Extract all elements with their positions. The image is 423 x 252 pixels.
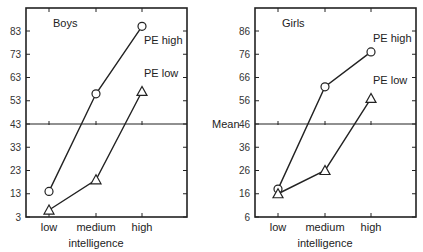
triangle-marker-icon — [137, 86, 147, 95]
triangle-marker-icon — [366, 93, 376, 102]
y-tick-label: 3 — [15, 212, 21, 223]
triangle-marker-icon — [91, 175, 101, 184]
panel-title: Boys — [53, 17, 78, 29]
y-tick-label: 6 — [244, 212, 250, 223]
y-tick-label: 73 — [10, 49, 22, 60]
x-axis-label: intelligence — [297, 237, 352, 249]
series-line — [278, 98, 371, 193]
y-tick-label: 26 — [239, 165, 251, 176]
y-tick-label: 83 — [10, 26, 22, 37]
series-line — [49, 26, 142, 191]
y-tick-label: 53 — [10, 95, 22, 106]
circle-marker-icon — [321, 83, 329, 91]
series-label: PE high — [144, 34, 183, 46]
x-tick-label: low — [41, 221, 58, 233]
series-label: PE high — [373, 32, 412, 44]
y-tick-label: 66 — [239, 72, 251, 83]
x-tick-label: medium — [76, 221, 115, 233]
circle-marker-icon — [367, 48, 375, 56]
y-tick-label: 56 — [239, 95, 251, 106]
series-label: PE low — [373, 74, 407, 86]
y-tick-label: 46 — [239, 119, 251, 130]
x-tick-label: low — [270, 221, 287, 233]
y-tick-label: 36 — [239, 142, 251, 153]
series-label: PE low — [144, 67, 178, 79]
panel-girls: 61626364656667686lowmediumhighintelligen… — [239, 8, 416, 249]
y-tick-label: 63 — [10, 72, 22, 83]
chart-figure: 31323334353637383lowmediumhighintelligen… — [0, 0, 423, 252]
x-tick-label: medium — [305, 221, 344, 233]
x-tick-label: high — [132, 221, 153, 233]
circle-marker-icon — [45, 187, 53, 195]
x-axis-label: intelligence — [68, 237, 123, 249]
panel-boys: 31323334353637383lowmediumhighintelligen… — [10, 8, 240, 249]
y-tick-label: 86 — [239, 26, 251, 37]
x-tick-label: high — [361, 221, 382, 233]
triangle-marker-icon — [320, 166, 330, 175]
y-tick-label: 16 — [239, 188, 251, 199]
y-tick-label: 23 — [10, 165, 22, 176]
y-tick-label: 76 — [239, 49, 251, 60]
triangle-marker-icon — [44, 205, 54, 214]
series-line — [49, 91, 142, 210]
y-tick-label: 13 — [10, 188, 22, 199]
mean-label: Mean — [212, 118, 240, 130]
circle-marker-icon — [92, 90, 100, 98]
circle-marker-icon — [138, 22, 146, 30]
y-tick-label: 33 — [10, 142, 22, 153]
panel-title: Girls — [282, 17, 305, 29]
y-tick-label: 43 — [10, 119, 22, 130]
